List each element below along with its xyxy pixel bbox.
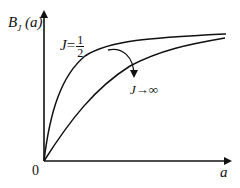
x-axis-label: a: [220, 164, 228, 181]
y-axis-label: BJ (a): [8, 14, 42, 33]
curve-label-j-infinity: J→∞: [130, 82, 158, 98]
curve-label-j-half: J=12: [60, 34, 84, 59]
origin-label: 0: [32, 163, 39, 179]
